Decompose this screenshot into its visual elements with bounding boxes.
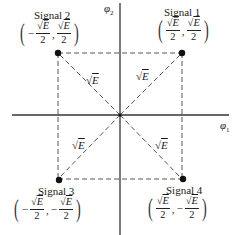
close-paren: ) [76,196,81,222]
x-sign: − [28,27,34,39]
y-fraction: √E2 [187,18,201,42]
close-paren: ) [74,20,79,46]
comma: , [172,203,175,221]
x-fraction: √E2 [166,18,180,42]
y-sign: − [51,203,57,215]
phi2-axis-label: φ2 [104,2,114,17]
phi1-axis-label: φ1 [220,119,230,134]
signal-3-coordinates: ( − √E2 , − √E2 ) [12,196,83,222]
signal-4-point [180,176,186,182]
x-fraction: √E2 [36,21,50,45]
x-sign: − [22,203,28,215]
edge-label-q2: √E [86,74,99,86]
y-fraction: √E2 [185,196,199,220]
x-fraction: √E2 [30,197,44,221]
open-paren: ( [14,196,19,222]
phi1-subscript: 1 [226,126,230,134]
edge-label-q4: √E [155,139,168,151]
comma: , [46,204,49,222]
signal-1-point [179,50,185,56]
comma: , [182,25,185,43]
y-fraction: √E2 [57,21,71,45]
close-paren: ) [202,195,207,221]
origin-point [118,113,121,116]
signal-1-coordinates: ( √E2 , √E2 ) [156,17,210,43]
x-fraction: √E2 [156,196,170,220]
y-sign: − [177,202,183,214]
signal-4-coordinates: ( √E2 , − √E2 ) [146,195,209,221]
signal-3-point [56,177,62,183]
y-fraction: √E2 [59,197,73,221]
open-paren: ( [158,17,163,43]
comma: , [52,28,55,46]
close-paren: ) [204,17,209,43]
phi2-subscript: 2 [110,9,114,17]
signal-2-point [55,50,61,56]
edge-label-q1: √E [136,70,149,82]
open-paren: ( [20,20,25,46]
open-paren: ( [148,195,153,221]
signal-2-coordinates: ( − √E2 , √E2 ) [18,20,81,46]
edge-label-q3: √E [72,139,85,151]
